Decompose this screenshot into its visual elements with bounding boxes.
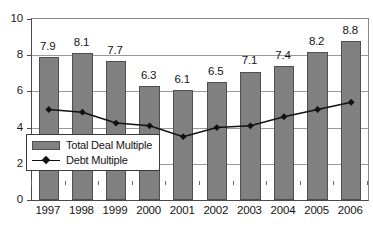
line-marker	[146, 122, 153, 129]
legend-bar-swatch-icon	[32, 141, 60, 150]
legend-line-swatch-icon	[32, 156, 60, 165]
x-axis-tick-mark	[300, 181, 301, 185]
x-axis-tick-label: 2000	[136, 204, 161, 216]
x-axis-tick-mark	[367, 181, 368, 185]
bar-value-label: 6.5	[199, 65, 233, 77]
chart-legend: Total Deal Multiple Debt Multiple	[26, 134, 160, 171]
y-axis-tick-label: 0	[0, 193, 23, 205]
bar-value-label: 8.8	[333, 24, 367, 36]
legend-item-total-deal-multiple: Total Deal Multiple	[32, 139, 152, 151]
x-axis-tick-mark	[132, 181, 133, 185]
x-axis-tick-mark	[333, 181, 334, 185]
legend-item-debt-multiple: Debt Multiple	[32, 154, 152, 166]
bar-value-label: 8.2	[300, 35, 334, 47]
x-axis-tick-label: 2001	[170, 204, 195, 216]
x-axis-tick-label: 1997	[35, 204, 60, 216]
y-axis-tick-label: 8	[0, 48, 23, 60]
legend-label-total-deal-multiple: Total Deal Multiple	[66, 139, 152, 151]
bar-value-label: 7.4	[266, 49, 300, 61]
x-axis-tick-mark	[65, 181, 66, 185]
x-axis-tick-label: 2003	[237, 204, 262, 216]
chart-container: 0246810 7.98.17.76.36.16.57.17.48.28.8 1…	[0, 0, 373, 229]
bar-value-label: 8.1	[65, 36, 99, 48]
y-axis-tick-label: 2	[0, 157, 23, 169]
x-axis-tick-mark	[98, 181, 99, 185]
line-marker	[79, 109, 86, 116]
line-marker	[348, 99, 355, 106]
y-axis-tick-label: 4	[0, 121, 23, 133]
line-marker	[45, 106, 52, 113]
y-axis-tick-label: 6	[0, 84, 23, 96]
x-axis-tick-mark	[199, 181, 200, 185]
line-marker	[281, 113, 288, 120]
bar-value-label: 7.9	[31, 40, 65, 52]
bar-value-label: 7.7	[98, 44, 132, 56]
bar-value-label: 7.1	[233, 54, 267, 66]
y-axis-tick-mark	[27, 200, 32, 201]
line-marker	[113, 120, 120, 127]
x-axis-tick-mark	[165, 181, 166, 185]
line-marker	[180, 133, 187, 140]
x-axis-tick-label: 1999	[103, 204, 128, 216]
x-axis-tick-label: 2004	[271, 204, 296, 216]
x-axis-tick-label: 1998	[69, 204, 94, 216]
x-axis-tick-label: 2005	[304, 204, 329, 216]
x-axis-tick-mark	[233, 181, 234, 185]
bar-value-label: 6.3	[132, 69, 166, 81]
legend-label-debt-multiple: Debt Multiple	[66, 154, 128, 166]
x-axis-tick-label: 2006	[338, 204, 363, 216]
line-marker	[314, 106, 321, 113]
line-marker	[213, 124, 220, 131]
bar-value-label: 6.1	[165, 73, 199, 85]
x-axis-tick-mark	[31, 181, 32, 185]
y-axis-tick-label: 10	[0, 12, 23, 24]
line-path	[49, 102, 351, 136]
line-marker	[247, 122, 254, 129]
x-axis-tick-label: 2002	[203, 204, 228, 216]
x-axis-tick-mark	[266, 181, 267, 185]
